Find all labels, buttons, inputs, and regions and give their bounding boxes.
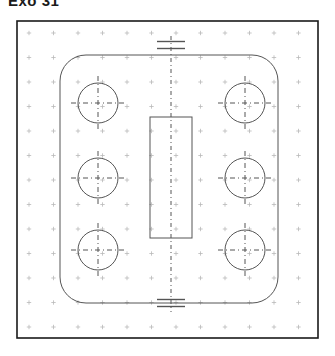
dot-grid-mark (149, 80, 153, 84)
dot-grid-mark (223, 129, 227, 133)
technical-drawing-svg (0, 0, 335, 356)
dot-grid-mark (100, 104, 104, 108)
dot-grid-mark (296, 55, 300, 59)
dot-grid-mark (198, 80, 202, 84)
hole-top-right (218, 76, 272, 130)
dot-grid-mark (100, 129, 104, 133)
dot-grid-mark (247, 325, 251, 329)
dot-grid-mark (174, 325, 178, 329)
dot-grid-mark (174, 31, 178, 35)
dot-grid-mark (174, 227, 178, 231)
dot-grid-mark (223, 325, 227, 329)
dot-grid-mark (76, 31, 80, 35)
dot-grid-mark (296, 80, 300, 84)
dot-grid-mark (27, 325, 31, 329)
dot-grid-mark (27, 55, 31, 59)
dot-grid-mark (198, 104, 202, 108)
dot-grid-mark (51, 202, 55, 206)
dot-grid-mark (247, 153, 251, 157)
dot-grid-mark (76, 325, 80, 329)
dot-grid-mark (198, 276, 202, 280)
dot-grid-mark (125, 325, 129, 329)
dot-grid-mark (27, 31, 31, 35)
dot-grid-mark (174, 153, 178, 157)
dot-grid-mark (76, 153, 80, 157)
dot-grid-mark (223, 80, 227, 84)
dot-grid-mark (27, 104, 31, 108)
dot-grid-mark (174, 178, 178, 182)
hole-middle-left (71, 151, 125, 205)
dot-grid-mark (272, 325, 276, 329)
dot-grid-mark (272, 202, 276, 206)
dot-grid-mark (27, 153, 31, 157)
dot-grid-mark (51, 325, 55, 329)
dot-grid-mark (100, 251, 104, 255)
dot-grid-mark (247, 129, 251, 133)
dot-grid-mark (272, 31, 276, 35)
dot-grid-mark (149, 55, 153, 59)
dot-grid-mark (296, 325, 300, 329)
dot-grid-mark (247, 104, 251, 108)
dot-grid-mark (100, 202, 104, 206)
dot-grid-mark (198, 251, 202, 255)
dot-grid-mark (27, 251, 31, 255)
dot-grid-mark (76, 227, 80, 231)
dot-grid-mark (149, 31, 153, 35)
dot-grid-mark (272, 276, 276, 280)
dot-grid-mark (100, 276, 104, 280)
dot-grid-mark (51, 178, 55, 182)
dot-grid-mark (296, 276, 300, 280)
dot-grid-mark (296, 31, 300, 35)
dot-grid-mark (296, 129, 300, 133)
dot-grid-mark (247, 276, 251, 280)
dot-grid-layer (27, 31, 301, 329)
dot-grid-mark (51, 153, 55, 157)
dot-grid-mark (76, 202, 80, 206)
dot-grid-mark (27, 80, 31, 84)
drawing-canvas (0, 0, 335, 356)
dot-grid-mark (198, 153, 202, 157)
dot-grid-mark (51, 31, 55, 35)
drawing-frame (17, 21, 318, 338)
dot-grid-mark (296, 300, 300, 304)
dot-grid-mark (296, 153, 300, 157)
dot-grid-mark (51, 276, 55, 280)
dot-grid-mark (125, 153, 129, 157)
dot-grid-mark (27, 178, 31, 182)
dot-grid-mark (125, 55, 129, 59)
dot-grid-mark (198, 227, 202, 231)
dot-grid-mark (223, 276, 227, 280)
dot-grid-mark (125, 31, 129, 35)
drawing-frame-layer (17, 21, 318, 338)
dot-grid-mark (51, 251, 55, 255)
dot-grid-mark (149, 104, 153, 108)
dot-grid-mark (125, 276, 129, 280)
dot-grid-mark (247, 55, 251, 59)
dot-grid-mark (198, 31, 202, 35)
hole-bottom-left (71, 223, 125, 277)
dot-grid-mark (149, 276, 153, 280)
dot-grid-mark (125, 104, 129, 108)
dot-grid-mark (223, 202, 227, 206)
dot-grid-mark (247, 31, 251, 35)
dot-grid-mark (198, 325, 202, 329)
dot-grid-mark (174, 202, 178, 206)
dot-grid-mark (174, 55, 178, 59)
dot-grid-mark (51, 80, 55, 84)
dot-grid-mark (149, 325, 153, 329)
dot-grid-mark (100, 325, 104, 329)
dot-grid-mark (198, 129, 202, 133)
dot-grid-mark (174, 80, 178, 84)
dot-grid-mark (272, 55, 276, 59)
dot-grid-mark (125, 227, 129, 231)
dot-grid-mark (100, 153, 104, 157)
dot-grid-mark (27, 129, 31, 133)
dot-grid-mark (223, 55, 227, 59)
dot-grid-mark (51, 129, 55, 133)
dot-grid-mark (247, 251, 251, 255)
dot-grid-mark (296, 251, 300, 255)
dot-grid-mark (174, 251, 178, 255)
hole-bottom-right (218, 223, 272, 277)
dot-grid-mark (51, 227, 55, 231)
dot-grid-mark (223, 227, 227, 231)
